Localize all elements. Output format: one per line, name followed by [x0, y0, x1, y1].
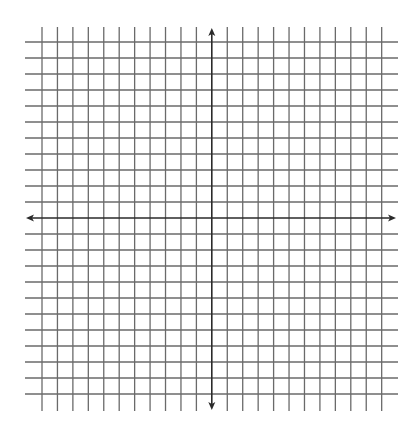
coordinate-grid: [0, 0, 419, 433]
